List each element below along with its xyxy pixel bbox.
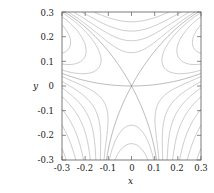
y-tick-label: 0.2 (22, 32, 54, 42)
x-tick-label: 0.3 (187, 163, 214, 173)
y-tick-label: -0.1 (22, 106, 54, 116)
y-axis-title: y (33, 81, 38, 91)
figure-page: 59. 0.3 0.2 0.1 0 -0.1 -0.2 -0.3 -0.3 -0… (0, 0, 214, 193)
x-axis-title: x (128, 176, 133, 186)
y-tick-label: -0.2 (22, 130, 54, 140)
y-tick-label: 0.3 (22, 8, 54, 18)
y-tick-label: 0.1 (22, 57, 54, 67)
